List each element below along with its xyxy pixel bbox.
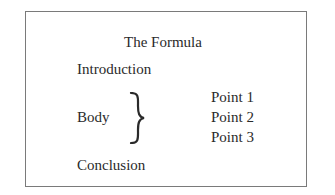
body-point-3: Point 3 [211, 130, 254, 145]
diagram-title: The Formula [124, 35, 202, 50]
section-introduction: Introduction [77, 62, 151, 77]
section-body: Body [77, 110, 110, 125]
section-conclusion: Conclusion [77, 158, 145, 173]
right-curly-brace-icon [129, 92, 147, 144]
body-point-2: Point 2 [211, 110, 254, 125]
body-point-1: Point 1 [211, 90, 254, 105]
